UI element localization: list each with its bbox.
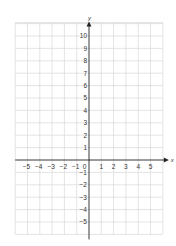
x-tick-label: −5: [23, 163, 31, 170]
x-tick-label: −3: [47, 163, 55, 170]
y-tick-label: 10: [80, 32, 88, 39]
y-tick-label: 4: [83, 107, 87, 114]
y-tick-label: −3: [80, 194, 88, 201]
y-tick-label: 3: [83, 119, 87, 126]
x-tick-label: 3: [124, 163, 128, 170]
y-tick-label: 2: [83, 132, 87, 139]
x-axis-arrow-icon: [164, 158, 169, 163]
y-axis-label: y: [87, 15, 92, 21]
y-tick-label: −4: [80, 206, 88, 213]
y-tick-label: 7: [83, 70, 87, 77]
x-tick-label: 1: [99, 163, 103, 170]
y-tick-label: 6: [83, 82, 87, 89]
x-axis-label: x: [170, 157, 175, 163]
coordinate-plane: x y −5−4−3−2−1012345 10987654321−1−2−3−4…: [0, 0, 176, 246]
y-tick-label: −1: [80, 169, 88, 176]
y-tick-label: 1: [83, 144, 87, 151]
x-tick-label: −2: [60, 163, 68, 170]
x-tick-label: 5: [149, 163, 153, 170]
y-tick-labels: 10987654321−1−2−3−4−5: [80, 32, 88, 225]
y-tick-label: 5: [83, 94, 87, 101]
y-tick-label: 9: [83, 45, 87, 52]
y-tick-label: −2: [80, 181, 88, 188]
x-tick-label: 2: [112, 163, 116, 170]
y-tick-label: 8: [83, 57, 87, 64]
x-tick-label: 4: [136, 163, 140, 170]
x-tick-labels: −5−4−3−2−1012345: [23, 163, 153, 170]
y-tick-label: −5: [80, 218, 88, 225]
x-tick-label: −4: [35, 163, 43, 170]
